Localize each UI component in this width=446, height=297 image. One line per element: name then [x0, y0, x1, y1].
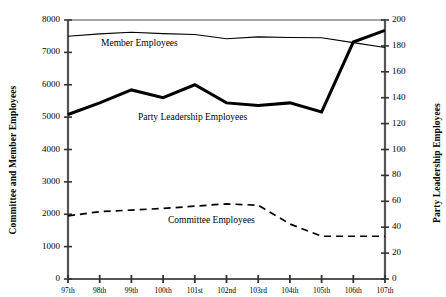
y-axis-left-tick-label: 3000 [20, 176, 60, 186]
data-series-layer [68, 30, 385, 236]
y-axis-right-tick-label: 60 [392, 195, 432, 205]
y-axis-right-tick-label: 160 [392, 66, 432, 76]
y-axis-left-tick-label: 6000 [20, 79, 60, 89]
line-chart: Committee and Member Employees Party Lea… [0, 0, 446, 297]
y-axis-right-tick-label: 20 [392, 247, 432, 257]
y-axis-left-tick-label: 7000 [20, 46, 60, 56]
annotation-member-employees: Member Employees [101, 38, 178, 48]
y-axis-left-tick-label: 5000 [20, 111, 60, 121]
x-axis-tick-label: 107th [365, 286, 405, 295]
y-axis-right-tick-label: 140 [392, 92, 432, 102]
y-axis-right-tick-label: 80 [392, 169, 432, 179]
axis-lines [68, 20, 385, 279]
y-axis-left-tick-label: 2000 [20, 208, 60, 218]
y-axis-right-tick-label: 0 [392, 273, 432, 283]
y-axis-left-tick-label: 0 [20, 273, 60, 283]
y-axis-right-tick-label: 40 [392, 221, 432, 231]
y-axis-right-tick-label: 200 [392, 14, 432, 24]
plot-area [0, 0, 446, 297]
y-axis-left-tick-label: 4000 [20, 144, 60, 154]
y-axis-right-tick-label: 120 [392, 118, 432, 128]
y-axis-left-tick-label: 1000 [20, 241, 60, 251]
y-axis-right-tick-label: 180 [392, 40, 432, 50]
y-axis-right-tick-label: 100 [392, 144, 432, 154]
annotation-party-leadership-employees: Party Leadership Employees [138, 112, 247, 122]
annotation-committee-employees: Committee Employees [168, 215, 255, 225]
y-axis-left-tick-label: 8000 [20, 14, 60, 24]
